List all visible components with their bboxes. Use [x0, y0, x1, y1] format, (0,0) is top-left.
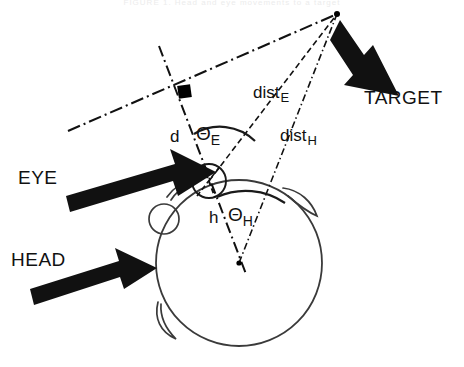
target-point-dot — [334, 11, 340, 17]
head-center-dot — [236, 260, 241, 265]
perpendicular-dash-dot-line — [68, 14, 337, 131]
label-theta-e: ΘE — [196, 124, 220, 147]
eye-gaze-axis-line — [159, 46, 246, 274]
label-d: d — [170, 128, 179, 145]
bottom-ear-arc — [157, 302, 176, 339]
dist-e-base: dist — [253, 83, 279, 102]
target-arrow — [330, 20, 399, 96]
theta-e-subscript: E — [211, 132, 220, 148]
figure-diagram: FIGURE 1. Head and eye movements to a ta… — [0, 0, 464, 367]
diagram-canvas — [0, 0, 464, 367]
theta-h-subscript: H — [243, 213, 253, 229]
theta-h-arc — [217, 191, 285, 203]
theta-h-symbol: Θ — [228, 204, 243, 225]
label-dist-e: distE — [253, 84, 289, 104]
right-ear-arc — [283, 188, 317, 216]
dist-h-subscript: H — [306, 133, 316, 148]
label-theta-h: ΘH — [228, 205, 253, 228]
dist-h-base: dist — [280, 126, 306, 145]
label-head: HEAD — [11, 250, 66, 269]
label-dist-h: distH — [280, 127, 317, 147]
square-marker — [177, 84, 192, 99]
dist-e-subscript: E — [279, 90, 289, 105]
eye-arrow — [66, 149, 216, 212]
theta-e-symbol: Θ — [196, 123, 211, 144]
label-h: h — [209, 209, 218, 226]
label-eye: EYE — [18, 168, 58, 187]
label-target: TARGET — [364, 88, 443, 107]
